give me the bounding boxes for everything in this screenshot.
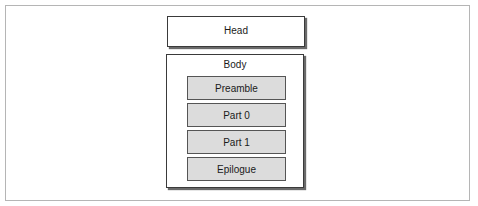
part-preamble: Preamble bbox=[187, 76, 286, 100]
part-0: Part 0 bbox=[187, 103, 286, 127]
part-1: Part 1 bbox=[187, 130, 286, 154]
head-label: Head bbox=[168, 25, 304, 36]
body-label: Body bbox=[167, 59, 303, 70]
head-box: Head bbox=[167, 16, 305, 47]
body-box: Body Preamble Part 0 Part 1 Epilogue bbox=[166, 54, 304, 188]
part-epilogue: Epilogue bbox=[187, 157, 286, 181]
